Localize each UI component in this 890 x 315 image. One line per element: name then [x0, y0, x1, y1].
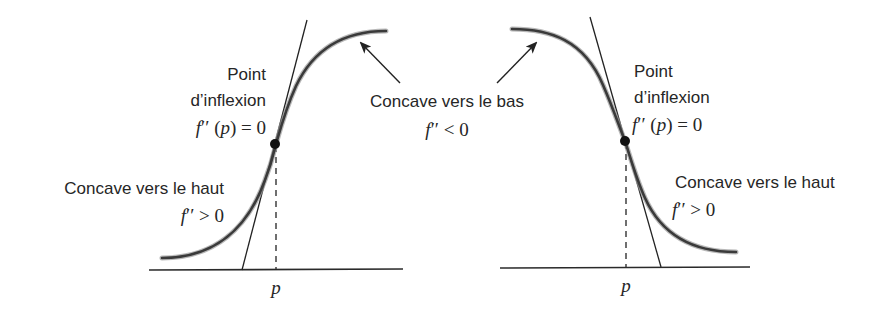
left-concave-up-equation: f′′ > 0	[181, 205, 224, 226]
left-inflection-label-line1: Point	[227, 65, 266, 84]
left-inflection-point	[270, 139, 280, 149]
inflection-point-diagram: Point d’inflexion f′′ (p) = 0 Concave ve…	[0, 0, 890, 315]
arrow-to-right-curve	[497, 43, 536, 83]
concave-down-annotation: Concave vers le bas f′′ < 0	[361, 43, 536, 140]
right-inflection-label-line2: d’inflexion	[634, 88, 710, 107]
left-concave-up-label: Concave vers le haut	[64, 179, 224, 198]
left-panel: Point d’inflexion f′′ (p) = 0 Concave ve…	[64, 20, 403, 298]
arrow-to-left-curve	[361, 43, 400, 83]
left-x-axis	[149, 269, 403, 270]
right-inflection-label-line1: Point	[634, 62, 673, 81]
concave-down-equation: f′′ < 0	[425, 119, 468, 140]
right-concave-up-label: Concave vers le haut	[675, 173, 835, 192]
right-concave-up-equation: f′′ > 0	[672, 199, 715, 220]
right-panel: Point d’inflexion f′′ (p) = 0 Concave ve…	[500, 17, 835, 296]
left-inflection-label-line2: d’inflexion	[190, 91, 266, 110]
left-axis-label-p: p	[269, 277, 281, 298]
concave-down-label: Concave vers le bas	[370, 92, 524, 111]
right-inflection-equation: f′′ (p) = 0	[632, 114, 702, 136]
right-x-axis	[500, 267, 750, 268]
right-inflection-point	[620, 136, 630, 146]
right-axis-label-p: p	[619, 275, 631, 296]
left-inflection-equation: f′′ (p) = 0	[196, 117, 266, 139]
